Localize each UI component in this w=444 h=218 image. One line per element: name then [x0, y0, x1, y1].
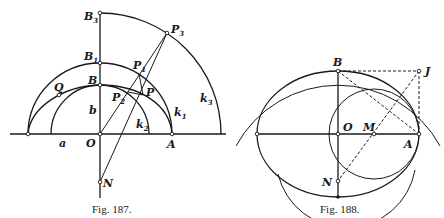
- figure-188: B J O M A N Fig. 188.: [236, 56, 440, 218]
- label-P2: P2: [111, 91, 125, 106]
- label-P1: P1: [132, 59, 146, 74]
- figure-187: B3 P3 B1 P1 B Q P P2 b a O A N k1 k2 k3 …: [10, 10, 226, 215]
- label-B: B: [87, 74, 97, 87]
- point-B1: [98, 61, 102, 65]
- point-left-vertex: [255, 132, 259, 136]
- label-Q: Q: [54, 81, 64, 94]
- point-O: [336, 132, 340, 136]
- label-B1: B1: [83, 50, 98, 65]
- label-P3: P3: [170, 23, 184, 38]
- label-a: a: [59, 137, 66, 150]
- point-B: [336, 69, 340, 73]
- point-O: [98, 132, 102, 136]
- point-bottom-vertex: [336, 195, 340, 199]
- point-N: [98, 180, 102, 184]
- label-N: N: [102, 177, 114, 190]
- figure-187-caption: Fig. 187.: [92, 203, 132, 215]
- point-J: [417, 69, 421, 73]
- point-A: [417, 132, 421, 136]
- point-B: [98, 83, 102, 87]
- label-B3: B3: [83, 10, 98, 25]
- point-P3: [165, 31, 169, 35]
- label-M: M: [362, 121, 376, 134]
- label-k3: k3: [200, 92, 213, 107]
- label-O: O: [343, 121, 353, 134]
- normal-line-N-P3: [100, 33, 167, 182]
- label-J: J: [423, 65, 431, 78]
- label-N: N: [321, 176, 333, 189]
- label-b: b: [89, 104, 97, 117]
- label-B: B: [332, 56, 342, 69]
- figure-188-caption: Fig. 188.: [320, 203, 360, 215]
- label-A: A: [166, 138, 176, 151]
- label-A: A: [403, 138, 413, 151]
- point-A: [170, 132, 174, 136]
- label-k1: k1: [174, 106, 187, 121]
- point-left-vertex: [26, 132, 30, 136]
- point-B3: [98, 11, 102, 15]
- circle-k3-arc: [100, 13, 221, 134]
- radius-line-O-P3: [100, 33, 167, 134]
- point-N: [336, 179, 340, 183]
- label-P: P: [145, 86, 155, 99]
- label-O: O: [86, 137, 96, 150]
- figure-plate: B3 P3 B1 P1 B Q P P2 b a O A N k1 k2 k3 …: [0, 0, 444, 218]
